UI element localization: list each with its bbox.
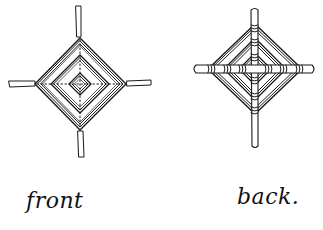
front-figure — [9, 6, 151, 157]
back-figure — [194, 9, 314, 148]
front-dotted-cross — [37, 40, 124, 128]
front-label: front — [26, 190, 83, 212]
back-label: back. — [237, 186, 299, 208]
